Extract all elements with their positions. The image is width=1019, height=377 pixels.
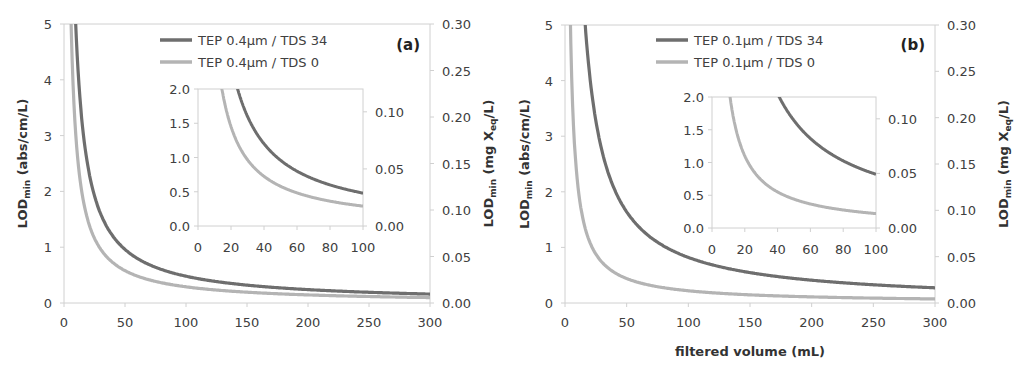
y2-tick-label: 0.25 [947, 64, 976, 79]
inset-y-tick-label: 2.0 [683, 90, 704, 105]
inset-y2-tick-label: 0.10 [375, 105, 404, 120]
x-tick-label: 0 [60, 315, 68, 330]
y-tick-label: 1 [545, 240, 553, 255]
inset-y-tick-label: 0.5 [169, 185, 190, 200]
y2-tick-label: 0.00 [442, 296, 471, 311]
y2-tick-label: 0.10 [442, 203, 471, 218]
x-tick-label: 200 [296, 315, 321, 330]
inset-x-tick-label: 20 [737, 242, 754, 257]
inset-y-tick-label: 1.5 [683, 123, 704, 138]
y2-axis-label: LODmin (mg Xeq/L) [481, 100, 498, 228]
legend-label: TEP 0.4µm / TDS 34 [197, 33, 327, 48]
y2-axis-label: LODmin (mg Xeq/L) [996, 100, 1013, 228]
y-tick-label: 1 [44, 240, 52, 255]
inset-y-tick-label: 0.0 [683, 221, 704, 236]
y-tick-label: 4 [44, 73, 52, 88]
y-axis-label: LODmin (abs/cm/L) [15, 99, 32, 229]
legend-label: TEP 0.1µm / TDS 34 [693, 33, 823, 48]
x-tick-label: 200 [799, 315, 824, 330]
y-tick-label: 3 [44, 129, 52, 144]
panel-label: (b) [901, 36, 925, 54]
inset-x-tick-label: 40 [769, 242, 786, 257]
inset-y2-tick-label: 0.10 [888, 112, 917, 127]
inset-y-tick-label: 1.5 [169, 116, 190, 131]
inset-x-tick-label: 80 [835, 242, 852, 257]
y2-tick-label: 0.05 [947, 250, 976, 265]
y2-tick-label: 0.05 [442, 250, 471, 265]
inset-y2-tick-label: 0.05 [375, 162, 404, 177]
y2-tick-label: 0.15 [947, 157, 976, 172]
inset-x-tick-label: 80 [322, 240, 339, 255]
inset-y-tick-label: 1.0 [169, 151, 190, 166]
y-axis-label: LODmin (abs/cm/L) [517, 99, 534, 229]
inset-x-tick-label: 20 [223, 240, 240, 255]
inset-x-tick-label: 100 [351, 240, 376, 255]
x-tick-label: 250 [861, 315, 886, 330]
chart-panel-b: 0123450.000.050.100.150.200.250.30050100… [517, 0, 1013, 359]
inset-x-tick-label: 0 [194, 240, 202, 255]
x-tick-label: 300 [923, 315, 948, 330]
figure: 0123450.000.050.100.150.200.250.30050100… [0, 0, 1019, 377]
y2-tick-label: 0.30 [947, 18, 976, 33]
y2-tick-label: 0.20 [442, 110, 471, 125]
inset-x-tick-label: 0 [708, 242, 716, 257]
inset-y-tick-label: 0.5 [683, 188, 704, 203]
y2-tick-label: 0.25 [442, 64, 471, 79]
inset-plot-area [712, 97, 876, 228]
inset-y-tick-label: 0.0 [169, 219, 190, 234]
y-tick-label: 0 [545, 296, 553, 311]
y-tick-label: 5 [545, 18, 553, 33]
y-tick-label: 4 [545, 74, 553, 89]
y-tick-label: 3 [545, 129, 553, 144]
inset-y-tick-label: 2.0 [169, 82, 190, 97]
y2-tick-label: 0.10 [947, 203, 976, 218]
inset-x-tick-label: 100 [864, 242, 889, 257]
x-tick-label: 250 [357, 315, 382, 330]
inset-x-tick-label: 60 [289, 240, 306, 255]
inset-y-tick-label: 1.0 [683, 156, 704, 171]
x-tick-label: 150 [738, 315, 763, 330]
y2-tick-label: 0.20 [947, 111, 976, 126]
x-tick-label: 50 [618, 315, 635, 330]
chart-panel-a: 0123450.000.050.100.150.200.250.30050100… [15, 0, 498, 330]
panel-label: (a) [396, 36, 420, 54]
x-tick-label: 300 [418, 315, 443, 330]
x-tick-label: 150 [235, 315, 260, 330]
y-tick-label: 5 [44, 17, 52, 32]
x-tick-label: 0 [561, 315, 569, 330]
x-tick-label: 100 [676, 315, 701, 330]
y2-tick-label: 0.30 [442, 17, 471, 32]
y-tick-label: 0 [44, 296, 52, 311]
x-tick-label: 100 [174, 315, 199, 330]
y2-tick-label: 0.15 [442, 157, 471, 172]
inset-y2-tick-label: 0.00 [888, 221, 917, 236]
x-tick-label: 50 [117, 315, 134, 330]
y2-tick-label: 0.00 [947, 296, 976, 311]
x-axis-label: filtered volume (mL) [675, 344, 825, 359]
inset-y2-tick-label: 0.05 [888, 166, 917, 181]
inset-x-tick-label: 40 [256, 240, 273, 255]
inset-y2-tick-label: 0.00 [375, 219, 404, 234]
y-tick-label: 2 [44, 184, 52, 199]
inset-plot-area [198, 89, 363, 226]
y-tick-label: 2 [545, 185, 553, 200]
legend-label: TEP 0.4µm / TDS 0 [197, 55, 319, 70]
inset-x-tick-label: 60 [802, 242, 819, 257]
legend-label: TEP 0.1µm / TDS 0 [693, 55, 815, 70]
